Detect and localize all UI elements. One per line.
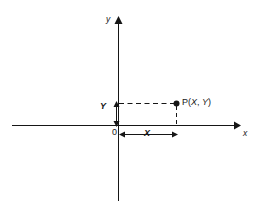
coordinate-diagram: y x 0 Y X P(X, Y) <box>0 0 258 207</box>
y-axis-arrowhead <box>115 16 123 24</box>
x-axis-label: x <box>243 129 247 138</box>
y-dimension-label: Y <box>100 102 106 111</box>
origin-label: 0 <box>112 128 117 137</box>
x-dimension-label: X <box>144 129 150 138</box>
point-p-marker <box>174 101 180 107</box>
diagram-canvas <box>0 0 258 207</box>
x-dimension-arrowhead-left <box>119 132 125 138</box>
point-p-label: P(X, Y) <box>182 98 211 107</box>
y-axis-label: y <box>106 15 110 24</box>
x-axis-arrowhead <box>234 122 241 130</box>
x-dimension-arrowhead-right <box>172 132 178 138</box>
point-label-prefix: P( <box>182 97 191 107</box>
point-label-suffix: ) <box>208 97 211 107</box>
